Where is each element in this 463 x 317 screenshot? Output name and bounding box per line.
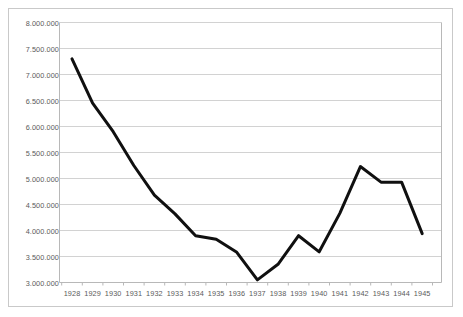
gridlines xyxy=(60,23,442,283)
data-line xyxy=(72,59,422,280)
data-line-series-1 xyxy=(72,59,422,280)
plot-svg xyxy=(0,0,463,317)
line-chart: 3.000.0003.500.0004.000.0004.500.0005.00… xyxy=(0,0,463,317)
